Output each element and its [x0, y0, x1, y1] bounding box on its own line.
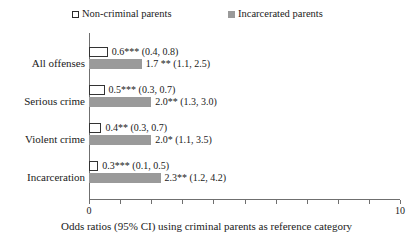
bar-incarcerated-incarceration	[89, 173, 161, 183]
bar-row-incarcerated: 1.7 ** (1.1, 2.5)	[89, 59, 400, 69]
x-axis-tick	[182, 200, 183, 204]
legend-item-non-criminal-parents: Non-criminal parents	[72, 8, 172, 20]
legend-label-non-criminal-parents: Non-criminal parents	[82, 8, 172, 20]
bar-row-incarcerated: 2.0** (1.3, 3.0)	[89, 97, 400, 107]
chart-legend: Non-criminal parents Incarcerated parent…	[0, 8, 413, 26]
x-axis-tick	[120, 200, 121, 204]
x-axis-tick	[369, 200, 370, 204]
x-axis-tick	[307, 200, 308, 204]
bar-label-incarcerated-violent-crime: 2.0* (1.1, 3.5)	[155, 133, 212, 146]
filled-square-icon	[228, 11, 235, 18]
bar-row-non-criminal: 0.6*** (0.4, 0.8)	[89, 47, 400, 57]
category-label-violent-crime: Violent crime	[1, 133, 85, 146]
bar-label-incarcerated-all-offenses: 1.7 ** (1.1, 2.5)	[146, 57, 210, 70]
x-axis-tick-label: 0	[87, 205, 92, 217]
bar-label-incarcerated-incarceration: 2.3** (1.2, 4.2)	[165, 171, 227, 184]
x-axis-tick	[151, 200, 152, 204]
x-axis-caption: Odds ratios (95% CI) using criminal pare…	[0, 219, 413, 233]
x-axis-tick	[338, 200, 339, 204]
bar-group-violent-crime: 0.4** (0.3, 0.7) 2.0* (1.1, 3.5)	[89, 123, 400, 147]
bar-group-serious-crime: 0.5*** (0.3, 0.7) 2.0** (1.3, 3.0)	[89, 85, 400, 109]
bar-group-all-offenses: 0.6*** (0.4, 0.8) 1.7 ** (1.1, 2.5)	[89, 47, 400, 71]
x-axis-tick	[89, 200, 90, 204]
x-axis-tick	[276, 200, 277, 204]
x-axis-tick	[400, 200, 401, 204]
bar-non-criminal-incarceration	[89, 161, 98, 171]
legend-item-incarcerated-parents: Incarcerated parents	[228, 8, 323, 20]
bar-incarcerated-all-offenses	[89, 59, 142, 69]
x-axis-tick	[245, 200, 246, 204]
legend-label-incarcerated-parents: Incarcerated parents	[238, 8, 323, 20]
bar-group-incarceration: 0.3*** (0.1, 0.5) 2.3** (1.2, 4.2)	[89, 161, 400, 185]
bar-row-incarcerated: 2.0* (1.1, 3.5)	[89, 135, 400, 145]
bar-non-criminal-all-offenses	[89, 47, 108, 57]
bar-incarcerated-violent-crime	[89, 135, 151, 145]
bar-non-criminal-serious-crime	[89, 85, 105, 95]
open-square-icon	[72, 11, 79, 18]
bar-label-incarcerated-serious-crime: 2.0** (1.3, 3.0)	[155, 95, 217, 108]
odds-ratio-bar-chart: Non-criminal parents Incarcerated parent…	[0, 0, 413, 243]
bar-non-criminal-violent-crime	[89, 123, 101, 133]
x-axis-tick	[213, 200, 214, 204]
bar-row-non-criminal: 0.5*** (0.3, 0.7)	[89, 85, 400, 95]
category-axis-labels: All offenses Serious crime Violent crime…	[0, 33, 85, 199]
plot-area: 010 0.6*** (0.4, 0.8) 1.7 ** (1.1, 2.5) …	[89, 33, 400, 199]
category-label-all-offenses: All offenses	[1, 57, 85, 70]
category-label-serious-crime: Serious crime	[1, 95, 85, 108]
bar-row-non-criminal: 0.3*** (0.1, 0.5)	[89, 161, 400, 171]
category-label-incarceration: Incarceration	[1, 171, 85, 184]
bar-label-non-criminal-incarceration: 0.3*** (0.1, 0.5)	[102, 159, 169, 172]
bar-incarcerated-serious-crime	[89, 97, 151, 107]
x-axis-tick-label: 10	[395, 205, 405, 217]
bar-row-non-criminal: 0.4** (0.3, 0.7)	[89, 123, 400, 133]
bar-row-incarcerated: 2.3** (1.2, 4.2)	[89, 173, 400, 183]
